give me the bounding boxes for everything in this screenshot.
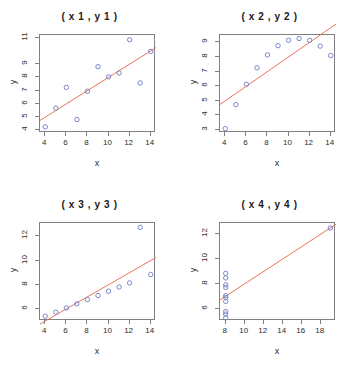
x-tick-mark: [330, 132, 331, 136]
x-axis-label: x: [39, 346, 155, 356]
x-tick-mark: [244, 320, 245, 324]
x-tick-label: 14: [140, 326, 160, 335]
regression-line: [220, 24, 336, 104]
data-point: [43, 125, 47, 129]
x-tick-mark: [224, 132, 225, 136]
y-tick-mark: [35, 103, 39, 104]
data-layer: [220, 223, 336, 321]
data-point: [276, 43, 280, 47]
data-point: [127, 281, 131, 285]
plot-panel-2: ( x 2 , y 2 ) 4681012143456789xy: [180, 0, 359, 188]
data-point: [234, 102, 238, 106]
x-tick-mark: [108, 132, 109, 136]
panel-title: ( x 4 , y 4 ): [180, 199, 359, 210]
x-tick-label: 4: [214, 138, 234, 147]
data-point: [106, 289, 110, 293]
x-tick-mark: [44, 132, 45, 136]
data-point: [64, 85, 68, 89]
x-axis-label: x: [39, 158, 155, 168]
x-tick-mark: [86, 132, 87, 136]
x-tick-mark: [150, 320, 151, 324]
x-tick-label: 6: [55, 138, 75, 147]
panel-title: ( x 3 , y 3 ): [0, 199, 179, 210]
x-tick-label: 14: [272, 326, 292, 335]
y-tick-mark: [35, 116, 39, 117]
x-tick-mark: [129, 320, 130, 324]
panel-title: ( x 2 , y 2 ): [180, 11, 359, 22]
x-tick-mark: [150, 132, 151, 136]
x-tick-mark: [320, 320, 321, 324]
y-tick-mark: [215, 233, 219, 234]
x-tick-label: 8: [76, 138, 96, 147]
y-tick-label: 10: [200, 247, 209, 267]
x-tick-mark: [266, 132, 267, 136]
y-tick-mark: [215, 114, 219, 115]
data-point: [117, 71, 121, 75]
y-tick-mark: [215, 100, 219, 101]
data-point: [138, 81, 142, 85]
y-tick-mark: [215, 85, 219, 86]
regression-line: [220, 224, 336, 300]
y-tick-mark: [215, 56, 219, 57]
y-tick-label: 11: [20, 26, 29, 46]
x-tick-label: 4: [34, 138, 54, 147]
x-tick-label: 4: [34, 326, 54, 335]
y-tick-label: 10: [20, 249, 29, 269]
y-tick-mark: [35, 235, 39, 236]
data-point: [96, 293, 100, 297]
panel-title: ( x 1 , y 1 ): [0, 11, 179, 22]
x-tick-label: 12: [299, 138, 319, 147]
x-axis-label: x: [219, 346, 335, 356]
x-tick-label: 6: [55, 326, 75, 335]
data-point: [127, 38, 131, 42]
x-tick-mark: [301, 320, 302, 324]
x-tick-label: 12: [119, 138, 139, 147]
data-point: [329, 53, 333, 57]
data-layer: [40, 35, 156, 133]
data-point: [286, 38, 290, 42]
y-tick-mark: [35, 37, 39, 38]
data-point: [75, 117, 79, 121]
y-tick-mark: [35, 90, 39, 91]
x-tick-label: 12: [119, 326, 139, 335]
y-tick-label: 12: [20, 225, 29, 245]
plot-panel-1: ( x 1 , y 1 ) 46810121445678911xy: [0, 0, 179, 188]
data-point: [224, 271, 228, 275]
x-tick-label: 18: [310, 326, 330, 335]
x-tick-mark: [288, 132, 289, 136]
x-tick-label: 10: [98, 326, 118, 335]
x-tick-mark: [44, 320, 45, 324]
data-point: [138, 225, 142, 229]
data-point: [297, 36, 301, 40]
plot-area: [219, 34, 335, 132]
x-tick-mark: [129, 132, 130, 136]
y-tick-mark: [215, 283, 219, 284]
data-point: [54, 310, 58, 314]
y-axis-label: y: [188, 70, 198, 94]
data-point: [255, 66, 259, 70]
y-tick-mark: [35, 129, 39, 130]
x-tick-label: 10: [234, 326, 254, 335]
x-tick-mark: [263, 320, 264, 324]
data-point: [318, 44, 322, 48]
data-point: [265, 53, 269, 57]
y-tick-mark: [215, 41, 219, 42]
y-axis-label: y: [188, 258, 198, 282]
data-layer: [220, 35, 336, 133]
x-tick-mark: [65, 132, 66, 136]
y-axis-label: y: [8, 70, 18, 94]
data-point: [224, 276, 228, 280]
data-point: [85, 297, 89, 301]
x-tick-mark: [225, 320, 226, 324]
x-tick-label: 10: [278, 138, 298, 147]
y-tick-mark: [215, 308, 219, 309]
x-tick-mark: [245, 132, 246, 136]
y-tick-label: 8: [200, 272, 209, 292]
x-tick-label: 10: [98, 138, 118, 147]
data-point: [54, 106, 58, 110]
data-point: [96, 64, 100, 68]
y-tick-label: 12: [200, 223, 209, 243]
y-tick-label: 9: [200, 31, 209, 51]
x-tick-label: 8: [215, 326, 235, 335]
y-tick-mark: [35, 308, 39, 309]
